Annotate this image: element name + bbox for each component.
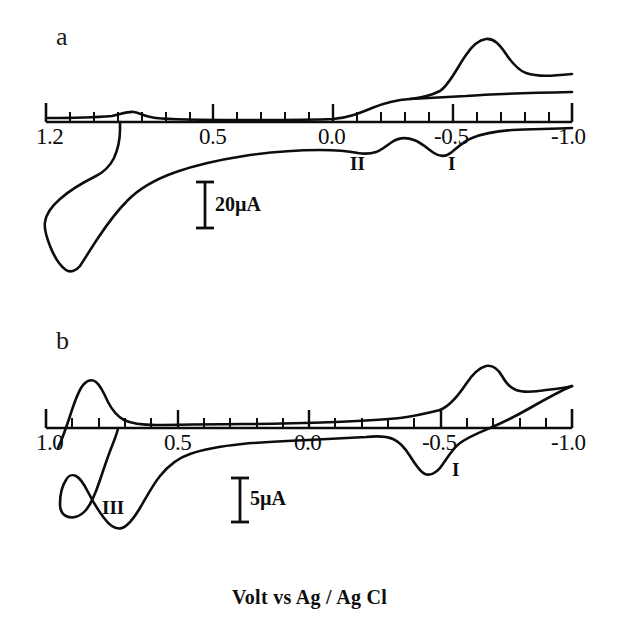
panel-a-trace <box>45 39 572 272</box>
panel-b-scalebar <box>231 478 249 522</box>
panel-b-xtick-label-2: 0.5 <box>164 431 191 454</box>
cyclic-voltammogram-figure: a <box>0 0 619 636</box>
panel-b-xtick-label-1: 1.0 <box>36 431 63 454</box>
panel-a-scalebar <box>196 182 214 228</box>
panel-a-scalebar-label: 20µA <box>215 194 261 214</box>
panel-b-peak-label-i: I <box>452 460 459 479</box>
panel-a-xtick-label-4: -0.5 <box>434 125 468 148</box>
panel-b-xtick-label-5: -1.0 <box>551 431 585 454</box>
panel-a-xtick-label-5: -1.0 <box>551 125 585 148</box>
panel-a-peak-label-ii: II <box>350 154 365 173</box>
x-axis-title: Volt vs Ag / Ag Cl <box>0 586 619 609</box>
panel-a-xtick-label-2: 0.5 <box>199 125 226 148</box>
panel-a-peak-label-i: I <box>448 154 455 173</box>
panel-a: a <box>0 0 619 320</box>
panel-b-peak-label-iii: III <box>102 498 124 517</box>
panel-a-xtick-label-3: 0.0 <box>318 125 345 148</box>
panel-b-scalebar-label: 5µA <box>250 488 286 508</box>
panel-b-axis <box>46 409 572 428</box>
panel-b: b <box>0 320 619 580</box>
panel-a-xtick-label-1: 1.2 <box>36 125 63 148</box>
panel-a-plot <box>0 0 619 320</box>
panel-b-xtick-label-3: 0.0 <box>294 431 321 454</box>
panel-b-xtick-label-4: -0.5 <box>422 431 456 454</box>
